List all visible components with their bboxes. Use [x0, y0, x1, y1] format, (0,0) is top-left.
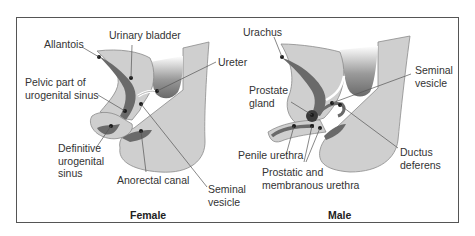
label-prostatic-membranous-line2: membranous urethra	[262, 179, 359, 192]
caption-male: Male	[328, 209, 351, 221]
label-seminal-vesicle-male-line2: vesicle	[415, 77, 453, 90]
label-definitive-sinus: Definitive urogenital sinus	[58, 142, 104, 180]
label-prostate-gland: Prostate gland	[249, 84, 288, 109]
label-prostate-gland-line1: Prostate	[249, 84, 288, 97]
label-ductus-deferens-line1: Ductus	[400, 146, 441, 159]
label-ductus-deferens-line2: deferens	[400, 159, 441, 172]
label-pelvic-part-line1: Pelvic part of	[25, 76, 99, 89]
label-seminal-vesicle-male: Seminal vesicle	[415, 64, 453, 89]
caption-female: Female	[130, 209, 166, 221]
label-definitive-sinus-line1: Definitive	[58, 142, 104, 155]
label-penile-urethra: Penile urethra	[238, 149, 303, 162]
label-anorectal-canal: Anorectal canal	[117, 174, 189, 187]
label-pelvic-part-line2: urogenital sinus	[25, 89, 99, 102]
label-seminal-vesicle-male-line1: Seminal	[415, 64, 453, 77]
male-hindgut	[340, 46, 378, 97]
label-seminal-vesicle-female-line2: vesicle	[208, 196, 246, 209]
label-seminal-vesicle-female-line1: Seminal	[208, 183, 246, 196]
label-allantois: Allantois	[44, 38, 84, 51]
label-definitive-sinus-line3: sinus	[58, 167, 104, 180]
label-urachus: Urachus	[243, 26, 282, 39]
label-ureter: Ureter	[218, 56, 247, 69]
label-ductus-deferens: Ductus deferens	[400, 146, 441, 171]
label-pelvic-part: Pelvic part of urogenital sinus	[25, 76, 99, 101]
label-seminal-vesicle-female: Seminal vesicle	[208, 183, 246, 208]
label-prostate-gland-line2: gland	[249, 97, 288, 110]
label-prostatic-membranous: Prostatic and membranous urethra	[262, 166, 359, 191]
label-urinary-bladder: Urinary bladder	[109, 29, 181, 42]
label-prostatic-membranous-line1: Prostatic and	[262, 166, 359, 179]
label-definitive-sinus-line2: urogenital	[58, 155, 104, 168]
